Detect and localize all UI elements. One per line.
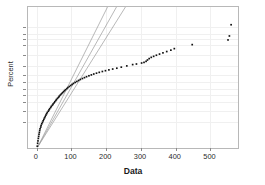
y-axis-tick: [23, 34, 26, 35]
data-point: [38, 133, 40, 135]
data-point: [42, 122, 44, 124]
data-point: [150, 57, 152, 59]
data-point: [38, 136, 40, 138]
data-point: [230, 24, 232, 26]
data-point: [120, 66, 122, 68]
data-point: [42, 120, 44, 122]
data-point: [86, 76, 88, 78]
data-point: [116, 67, 118, 69]
data-point: [173, 48, 175, 50]
data-point: [74, 82, 76, 84]
plot-area: [27, 6, 239, 149]
data-point: [98, 72, 100, 74]
y-axis-tick: [23, 111, 26, 112]
data-point: [108, 69, 110, 71]
x-axis-tick-label: 300: [134, 152, 146, 161]
y-axis-tick: [23, 95, 26, 96]
data-point: [84, 77, 86, 79]
x-axis-tick: [210, 148, 211, 151]
data-point: [39, 128, 41, 130]
data-point: [43, 119, 45, 121]
y-axis-title: Percent: [6, 61, 15, 86]
y-axis-tick: [23, 122, 26, 123]
x-axis-tick: [176, 148, 177, 151]
fit-line: [38, 7, 117, 147]
x-axis-tick: [106, 148, 107, 151]
data-point: [37, 138, 39, 140]
x-axis-tick-label: 0: [34, 152, 38, 161]
data-point: [102, 71, 104, 73]
data-point: [40, 126, 42, 128]
x-axis-tick: [37, 148, 38, 151]
y-axis-tick: [23, 102, 26, 103]
data-point: [96, 72, 98, 74]
data-point: [37, 142, 39, 144]
y-axis-tick: [23, 45, 26, 46]
data-point: [147, 59, 149, 61]
data-point: [78, 80, 80, 82]
data-point: [88, 75, 90, 77]
data-point: [126, 65, 128, 67]
y-axis-tick: [23, 66, 26, 67]
x-axis-tick-label: 400: [169, 152, 181, 161]
data-point: [162, 52, 164, 54]
data-point: [229, 35, 231, 37]
x-axis-tick-label: 100: [64, 152, 76, 161]
y-axis-tick: [23, 55, 26, 56]
y-axis-tick: [23, 27, 26, 28]
x-axis-tick-label: 200: [99, 152, 111, 161]
reference-lines: [38, 7, 126, 147]
data-point: [79, 79, 81, 81]
data-point: [153, 55, 155, 57]
data-point: [91, 74, 93, 76]
data-point: [227, 39, 229, 41]
data-point: [82, 78, 84, 80]
data-point: [156, 54, 158, 56]
x-axis-tick-label: 500: [203, 152, 215, 161]
data-point: [36, 145, 38, 147]
x-axis-title: Data: [124, 166, 143, 176]
y-axis-tick: [23, 39, 26, 40]
data-point: [37, 140, 39, 142]
upper-ci-bound: [38, 7, 126, 147]
data-point: [39, 130, 41, 132]
lower-ci-bound: [38, 7, 108, 147]
data-point: [136, 63, 138, 65]
data-point: [170, 49, 172, 51]
data-point: [159, 53, 161, 55]
x-axis-tick: [71, 148, 72, 151]
data-point: [132, 64, 134, 66]
probability-plot-figure: Percent 99989795908070605040302010 01002…: [0, 0, 265, 185]
data-point-markers: [36, 24, 232, 147]
data-point: [143, 62, 145, 64]
y-axis-tick: [23, 82, 26, 83]
data-point: [148, 58, 150, 60]
data-point: [191, 44, 193, 46]
data-point: [41, 123, 43, 125]
data-point: [93, 73, 95, 75]
data-point: [166, 51, 168, 53]
data-point: [40, 125, 42, 127]
data-point: [39, 132, 41, 134]
plot-canvas: [28, 7, 238, 148]
data-point: [76, 81, 78, 83]
y-axis-tick: [23, 89, 26, 90]
data-point: [105, 70, 107, 72]
data-point: [73, 83, 75, 85]
data-point: [141, 62, 143, 64]
y-axis-tick: [23, 75, 26, 76]
x-axis-tick: [141, 148, 142, 151]
data-point: [112, 68, 114, 70]
